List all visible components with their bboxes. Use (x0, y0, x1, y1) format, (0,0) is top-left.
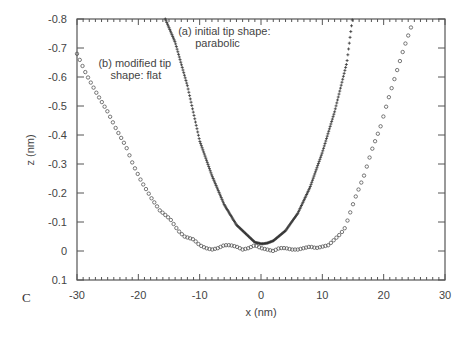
data-point (185, 82, 188, 85)
data-point (393, 77, 396, 80)
data-point (338, 233, 341, 236)
data-point (395, 68, 398, 71)
data-point (142, 183, 145, 186)
x-tick-label: 20 (378, 289, 390, 301)
x-tick-label: -20 (130, 289, 146, 301)
data-point (180, 63, 183, 66)
data-point (175, 45, 178, 48)
data-point (117, 131, 120, 134)
data-point (189, 97, 192, 100)
data-point (181, 66, 184, 69)
data-point (343, 69, 346, 72)
data-point (114, 126, 117, 129)
x-tick-label: 30 (439, 289, 451, 301)
data-point (195, 124, 198, 127)
data-point (340, 230, 343, 233)
data-point (349, 30, 352, 33)
data-point (340, 84, 343, 87)
data-point (337, 96, 340, 99)
data-point (131, 161, 134, 164)
data-point (186, 84, 189, 87)
data-point (119, 136, 122, 139)
x-tick-label: 0 (258, 289, 264, 301)
data-point (368, 156, 371, 159)
data-point (407, 34, 410, 37)
annotation-flat: (b) modified tipshape: flat (98, 57, 171, 81)
data-point (176, 50, 179, 53)
data-point (398, 59, 401, 62)
data-point (371, 147, 374, 150)
data-point (177, 53, 180, 56)
annotation-line: parabolic (195, 37, 240, 49)
data-point (169, 218, 172, 221)
data-point (108, 115, 111, 118)
data-point (191, 107, 194, 110)
data-point (346, 219, 349, 222)
data-point (188, 94, 191, 97)
data-point (97, 96, 100, 99)
data-point (89, 81, 92, 84)
data-point (334, 107, 337, 110)
y-tick-label: -0.3 (48, 158, 67, 170)
data-point (346, 59, 349, 62)
data-point (332, 239, 335, 242)
data-point (198, 137, 201, 140)
data-point (139, 178, 142, 181)
data-point (401, 50, 404, 53)
y-tick-label: 0 (61, 245, 67, 257)
annotation-line: (a) initial tip shape: (178, 25, 270, 37)
data-point (376, 132, 379, 135)
data-point (196, 130, 199, 133)
data-point (197, 134, 200, 137)
data-point (387, 95, 390, 98)
data-point (347, 47, 350, 50)
data-point (103, 105, 106, 108)
data-point (111, 121, 114, 124)
data-point (192, 111, 195, 114)
data-point (335, 101, 338, 104)
y-tick-label: -0.6 (48, 71, 67, 83)
data-point (128, 154, 131, 157)
data-point (195, 127, 198, 130)
data-point (122, 141, 125, 144)
data-point (349, 36, 352, 39)
data-point (179, 61, 182, 64)
data-point (155, 205, 158, 208)
data-point (349, 211, 352, 214)
data-point (183, 74, 186, 77)
data-point (409, 26, 412, 29)
data-point (150, 197, 153, 200)
panel-label: C (22, 290, 31, 305)
data-point (178, 55, 181, 58)
data-point (336, 98, 339, 101)
data-point (84, 70, 87, 73)
data-point (344, 66, 347, 69)
annotation-parabolic: (a) initial tip shape:parabolic (178, 25, 270, 49)
data-point (106, 110, 109, 113)
x-axis-label: x (nm) (245, 306, 276, 318)
data-point (345, 63, 348, 66)
data-point (136, 172, 139, 175)
data-point (144, 187, 147, 190)
data-point (78, 58, 81, 61)
data-point (187, 91, 190, 94)
series-parabolic-tip (164, 18, 354, 246)
data-point (338, 90, 341, 93)
y-tick-label: -0.5 (48, 100, 67, 112)
data-point (379, 125, 382, 128)
data-point (350, 24, 353, 27)
data-point (354, 195, 357, 198)
data-point (153, 201, 156, 204)
data-point (343, 227, 346, 230)
data-point (404, 42, 407, 45)
data-point (190, 101, 193, 104)
y-tick-labels: -0.8-0.7-0.6-0.5-0.4-0.3-0.2-0.100.1 (48, 13, 67, 286)
data-point (193, 114, 196, 117)
data-point (177, 230, 180, 233)
x-tick-label: -10 (192, 289, 208, 301)
data-point (184, 76, 187, 79)
data-point (193, 117, 196, 120)
data-point (166, 216, 169, 219)
data-point (346, 53, 349, 56)
y-tick-label: -0.2 (48, 187, 67, 199)
